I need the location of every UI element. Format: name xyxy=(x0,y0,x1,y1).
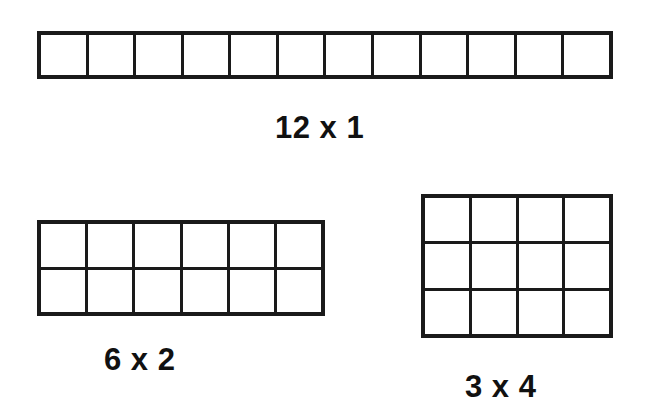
array-cell xyxy=(277,270,321,313)
array-cell xyxy=(519,244,563,287)
array-cell xyxy=(565,244,609,287)
array-cell xyxy=(472,244,516,287)
array-cell xyxy=(136,35,181,75)
array-cell xyxy=(41,35,86,75)
array-cell xyxy=(519,198,563,241)
worksheet-canvas: 12 x 1 6 x 2 3 x 4 xyxy=(0,0,646,411)
array-cell xyxy=(135,224,179,267)
array-cell xyxy=(374,35,419,75)
array-cell xyxy=(422,35,467,75)
array-grid-12x1 xyxy=(37,31,613,79)
array-cell xyxy=(88,270,132,313)
array-cell xyxy=(425,291,469,334)
array-label-12x1: 12 x 1 xyxy=(275,112,364,143)
array-cell xyxy=(326,35,371,75)
array-cell xyxy=(184,35,229,75)
array-cell xyxy=(277,224,321,267)
array-cell xyxy=(279,35,324,75)
array-cell xyxy=(89,35,134,75)
array-cell xyxy=(135,270,179,313)
array-cell xyxy=(231,35,276,75)
array-cell xyxy=(517,35,562,75)
array-cell xyxy=(230,270,274,313)
array-cell xyxy=(472,291,516,334)
array-cell xyxy=(425,244,469,287)
array-grid-3x4 xyxy=(421,194,613,338)
array-cell xyxy=(565,198,609,241)
array-cell xyxy=(41,224,85,267)
array-cell xyxy=(230,224,274,267)
array-label-3x4: 3 x 4 xyxy=(465,371,536,402)
array-cell xyxy=(565,291,609,334)
array-grid-6x2 xyxy=(37,220,325,316)
array-cell xyxy=(183,224,227,267)
array-label-6x2: 6 x 2 xyxy=(104,344,175,375)
array-cell xyxy=(183,270,227,313)
array-cell xyxy=(425,198,469,241)
array-cell xyxy=(472,198,516,241)
array-cell xyxy=(88,224,132,267)
array-cell xyxy=(469,35,514,75)
array-cell xyxy=(519,291,563,334)
array-cell xyxy=(564,35,609,75)
array-cell xyxy=(41,270,85,313)
